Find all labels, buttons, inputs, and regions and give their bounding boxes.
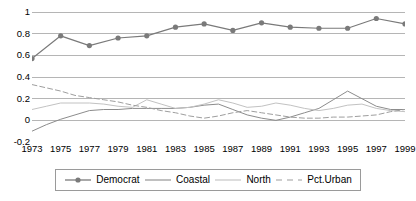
legend-item-north[interactable]: North [214,175,270,185]
data-point-marker [87,43,92,48]
x-tick-label: 1997 [366,144,387,154]
x-tick-label: 1991 [280,144,301,154]
x-tick-label: 1983 [165,144,186,154]
x-tick-label: 1973 [21,144,42,154]
x-tick-label: 1975 [50,144,71,154]
series-line-democrat [32,19,405,59]
data-point-marker [230,28,235,33]
legend-swatch-icon [214,175,242,185]
y-tick-label: 0 [2,115,30,125]
y-tick-label: 1 [2,7,30,17]
legend-label: Pct.Urban [307,175,351,185]
x-tick-label: 1995 [337,144,358,154]
y-tick-label: 0.8 [2,29,30,39]
legend-swatch-icon [64,175,92,185]
data-point-marker [58,33,63,38]
data-point-marker [402,21,405,26]
y-tick-label: 0.6 [2,50,30,60]
plot-svg [32,12,405,142]
data-point-marker [115,35,120,40]
legend-item-coastal[interactable]: Coastal [144,175,210,185]
x-tick-label: 1977 [79,144,100,154]
data-point-marker [259,20,264,25]
legend-item-democrat[interactable]: Democrat [64,175,139,185]
data-point-marker [202,21,207,26]
chart-legend: DemocratCoastalNorthPct.Urban [55,169,361,191]
x-tick-label: 1985 [194,144,215,154]
legend-label: Coastal [176,175,210,185]
x-tick-label: 1993 [308,144,329,154]
legend-swatch-icon [144,175,172,185]
x-tick-label: 1987 [222,144,243,154]
legend-swatch-icon [275,175,303,185]
series-line-north [32,100,405,112]
x-tick-label: 1989 [251,144,272,154]
y-tick-label: 0.2 [2,94,30,104]
x-tick-label: 1999 [394,144,415,154]
data-point-marker [374,16,379,21]
y-axis: 10.80.60.40.20-0.2 [0,0,30,150]
data-point-marker [144,33,149,38]
x-tick-label: 1979 [108,144,129,154]
y-tick-label: 0.4 [2,72,30,82]
legend-item-pct-urban[interactable]: Pct.Urban [275,175,351,185]
data-point-marker [173,25,178,30]
x-axis: 1973197519771979198119831985198719891991… [32,144,405,158]
data-point-marker [288,25,293,30]
line-chart: 10.80.60.40.20-0.2 197319751977197919811… [0,0,416,201]
legend-label: Democrat [96,175,139,185]
plot-area [32,12,405,142]
legend-label: North [246,175,270,185]
series-line-pct-urban [32,85,405,119]
x-tick-label: 1981 [136,144,157,154]
series-lines [32,19,405,132]
data-point-marker [345,26,350,31]
data-point-marker [316,26,321,31]
series-markers [32,16,405,61]
gridlines [32,12,405,142]
